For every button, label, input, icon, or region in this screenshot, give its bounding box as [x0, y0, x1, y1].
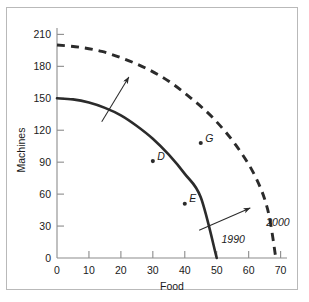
curve-label-1990: 1990 [222, 233, 246, 245]
y-tick-label: 210 [33, 28, 51, 40]
x-axis-title: Food [160, 280, 184, 292]
y-axis-title: Machines [15, 128, 27, 173]
data-point-label-g: G [205, 132, 213, 144]
axes [57, 28, 287, 258]
x-tick-label: 10 [83, 264, 95, 276]
x-tick-label: 60 [243, 264, 255, 276]
x-tick-label: 30 [147, 264, 159, 276]
production-possibilities-chart: 0306090120150180210 010203040506070 Mach… [0, 0, 309, 302]
y-tick-label: 0 [45, 252, 51, 264]
x-tick-label: 40 [179, 264, 191, 276]
shift-arrow-upper [102, 77, 129, 122]
data-point-label-d: D [157, 150, 165, 162]
data-point-d [151, 159, 155, 163]
x-tick-label: 0 [54, 264, 60, 276]
y-tick-label: 60 [39, 188, 51, 200]
shift-arrows [102, 77, 251, 230]
data-point-g [199, 141, 203, 145]
data-point-e [183, 202, 187, 206]
x-tick-label: 70 [275, 264, 287, 276]
y-tick-label: 150 [33, 92, 51, 104]
y-axis-ticks [57, 34, 64, 226]
x-axis-ticks [89, 251, 281, 258]
y-tick-label: 120 [33, 124, 51, 136]
y-tick-label: 30 [39, 220, 51, 232]
curve-labels: 19902000 [222, 216, 290, 245]
data-point-label-e: E [189, 192, 197, 204]
x-tick-label: 50 [211, 264, 223, 276]
x-axis-tick-labels: 010203040506070 [54, 264, 287, 276]
y-tick-label: 90 [39, 156, 51, 168]
x-tick-label: 20 [115, 264, 127, 276]
curve-label-2000: 2000 [265, 216, 290, 228]
y-axis-tick-labels: 0306090120150180210 [33, 28, 51, 264]
y-tick-label: 180 [33, 60, 51, 72]
ppf-curve-1990 [57, 98, 217, 258]
